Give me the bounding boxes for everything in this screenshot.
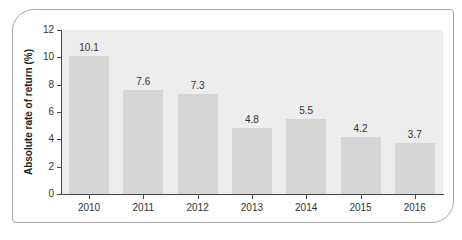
bar-value-label: 5.5 (286, 105, 326, 116)
bar-2010 (69, 56, 109, 194)
y-tick-label: 12 (34, 24, 54, 35)
bar-2014 (286, 119, 326, 194)
x-tick-label: 2016 (395, 202, 435, 213)
x-tick-label: 2014 (286, 202, 326, 213)
y-tick (57, 112, 61, 113)
x-tick (198, 195, 199, 199)
bar-2015 (341, 137, 381, 194)
bar-value-label: 7.6 (123, 76, 163, 87)
y-tick-label: 2 (34, 161, 54, 172)
x-tick-label: 2015 (341, 202, 381, 213)
x-tick (415, 195, 416, 199)
y-tick (57, 167, 61, 168)
x-tick (143, 195, 144, 199)
bar-value-label: 3.7 (395, 129, 435, 140)
y-axis (61, 30, 62, 195)
y-tick-label: 0 (34, 188, 54, 199)
x-tick (89, 195, 90, 199)
y-tick (57, 30, 61, 31)
y-tick (57, 139, 61, 140)
y-tick-label: 6 (34, 106, 54, 117)
bar-2011 (123, 90, 163, 194)
bar-value-label: 7.3 (178, 80, 218, 91)
bar-2013 (232, 128, 272, 194)
y-tick (57, 194, 61, 195)
y-axis-label: Absolute rate of return (%) (23, 49, 34, 175)
y-tick-label: 4 (34, 133, 54, 144)
bar-2016 (395, 143, 435, 194)
x-tick (361, 195, 362, 199)
y-tick (57, 57, 61, 58)
x-tick-label: 2011 (123, 202, 163, 213)
bar-value-label: 4.8 (232, 114, 272, 125)
x-tick-label: 2012 (178, 202, 218, 213)
x-tick (252, 195, 253, 199)
y-tick-label: 8 (34, 79, 54, 90)
x-tick-label: 2013 (232, 202, 272, 213)
bar-2012 (178, 94, 218, 194)
bar-value-label: 4.2 (341, 123, 381, 134)
y-tick-label: 10 (34, 51, 54, 62)
x-tick-label: 2010 (69, 202, 109, 213)
y-tick (57, 85, 61, 86)
x-tick (306, 195, 307, 199)
bar-value-label: 10.1 (69, 42, 109, 53)
